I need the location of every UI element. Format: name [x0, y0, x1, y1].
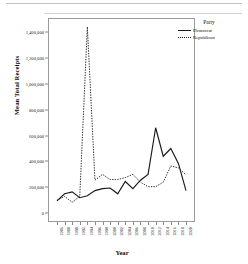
x-tick-mark	[80, 222, 81, 225]
legend-label: Democrat	[193, 28, 212, 33]
x-tick-mark	[148, 222, 149, 225]
x-axis: 1986198819901992199419961998200020022004…	[48, 222, 195, 264]
x-tick-mark	[72, 222, 73, 225]
x-tick-mark	[125, 222, 126, 225]
x-tick-label: 2012	[157, 227, 162, 236]
y-tick-label: 0	[42, 211, 44, 216]
x-axis-title: Year	[48, 249, 196, 256]
y-tick-label: 600,000	[29, 133, 44, 138]
x-tick-mark	[163, 222, 164, 225]
legend-item-democrat[interactable]: Democrat	[178, 27, 240, 34]
legend-key-dotted	[178, 35, 191, 40]
x-tick-label: 1990	[74, 227, 79, 236]
x-tick-mark	[140, 222, 141, 225]
x-tick-label: 1996	[97, 227, 102, 236]
x-tick-mark	[110, 222, 111, 225]
x-tick-label: 1986	[59, 227, 64, 236]
x-tick-mark	[87, 222, 88, 225]
legend-title: Party	[178, 19, 240, 25]
x-tick-label: 1998	[104, 227, 109, 236]
plot-panel	[48, 18, 195, 222]
y-tick-label: 1,000,000	[26, 81, 44, 86]
series-line-republican	[57, 27, 186, 202]
y-tick-label: 400,000	[29, 159, 44, 164]
y-axis: 0200,000400,000600,000800,0001,000,0001,…	[0, 18, 48, 222]
page-rule-top	[6, 3, 242, 4]
x-tick-label: 2010	[150, 227, 155, 236]
x-tick-label: 1988	[66, 227, 71, 236]
x-tick-mark	[133, 222, 134, 225]
x-tick-label: 2016	[172, 227, 177, 236]
x-tick-mark	[103, 222, 104, 225]
x-tick-mark	[171, 222, 172, 225]
x-tick-label: 1992	[81, 227, 86, 236]
x-tick-mark	[65, 222, 66, 225]
x-tick-label: 2020	[188, 227, 193, 236]
y-tick-label: 1,200,000	[26, 55, 44, 60]
x-tick-mark	[95, 222, 96, 225]
legend: Party DemocratRepublican	[178, 19, 240, 49]
y-tick-label: 200,000	[29, 185, 44, 190]
legend-item-republican[interactable]: Republican	[178, 34, 240, 41]
x-tick-label: 2002	[119, 227, 124, 236]
x-tick-mark	[118, 222, 119, 225]
x-tick-mark	[178, 222, 179, 225]
legend-key-solid	[178, 28, 191, 33]
x-tick-mark	[156, 222, 157, 225]
x-tick-label: 2018	[180, 227, 185, 236]
series-canvas	[49, 19, 194, 221]
x-tick-mark	[57, 222, 58, 225]
y-tick-label: 800,000	[29, 107, 44, 112]
page-rule-secondary	[44, 13, 242, 14]
y-tick-label: 1,400,000	[26, 29, 44, 34]
x-tick-label: 2008	[142, 227, 147, 236]
x-tick-mark	[186, 222, 187, 225]
x-tick-label: 2006	[134, 227, 139, 236]
x-tick-label: 2014	[165, 227, 170, 236]
chart-figure: Mean Total Receipts 0200,000400,000600,0…	[0, 0, 248, 264]
x-tick-label: 2000	[112, 227, 117, 236]
legend-label: Republican	[193, 35, 215, 40]
series-line-democrat	[57, 128, 186, 201]
x-tick-label: 1994	[89, 227, 94, 236]
x-tick-label: 2004	[127, 227, 132, 236]
